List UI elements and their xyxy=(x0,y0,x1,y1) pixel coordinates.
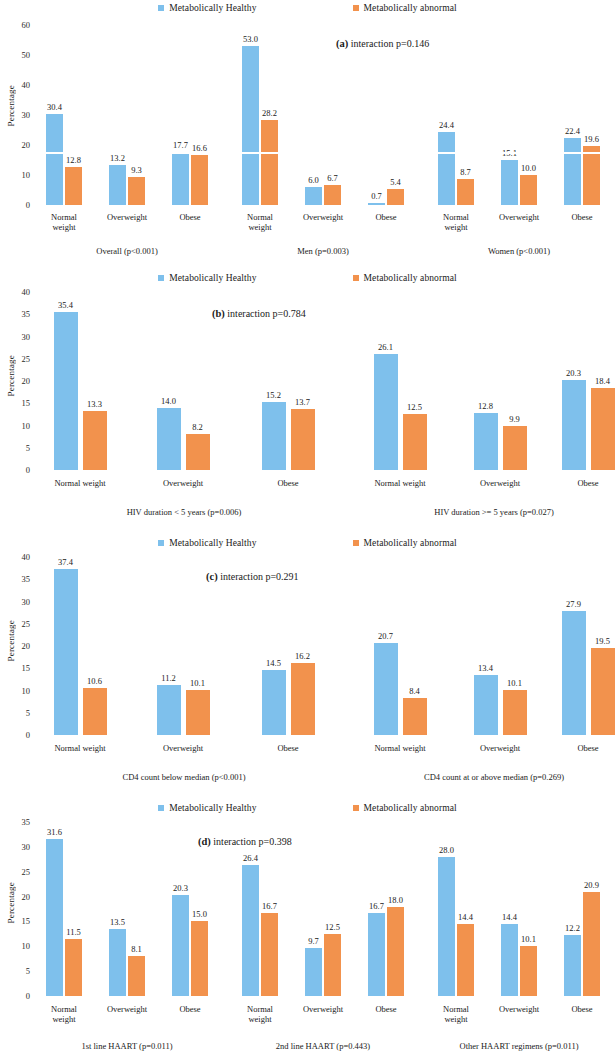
y-tick-label: 30 xyxy=(6,843,30,852)
bar-abnormal xyxy=(520,946,537,996)
bar-abnormal xyxy=(83,411,107,470)
bar-value-label: 10.1 xyxy=(521,935,536,944)
bar-abnormal xyxy=(191,921,208,996)
bar-value-label: 30.4 xyxy=(47,103,62,112)
bar-value-label: 6.0 xyxy=(308,176,319,185)
x-category-label: Normal weight xyxy=(374,743,425,753)
bar-value-label: 13.4 xyxy=(478,664,493,673)
y-tick-label: 30 xyxy=(6,332,30,341)
plot-area-a: Percentage 0102030405060 30.413.217.753.… xyxy=(0,0,615,270)
bar-healthy xyxy=(305,948,322,996)
y-tick-label: 25 xyxy=(6,867,30,876)
bar-value-label: 26.4 xyxy=(243,854,258,863)
bar-abnormal xyxy=(128,177,145,205)
chart-panel-c: Metabolically Healthy Metabolically abno… xyxy=(0,535,615,800)
x-category-label: Obese xyxy=(571,1004,592,1014)
bar-value-label: 22.4 xyxy=(565,127,580,136)
bar-healthy xyxy=(262,402,286,470)
bar-healthy xyxy=(564,138,581,205)
bar-healthy xyxy=(374,643,398,735)
bars-c: 37.411.214.520.713.427.910.610.116.28.41… xyxy=(30,557,615,735)
x-category-label: Obese xyxy=(577,743,598,753)
bar-abnormal xyxy=(457,179,474,205)
bar-healthy xyxy=(262,670,286,735)
bar-healthy xyxy=(305,187,322,205)
y-tick-label: 5 xyxy=(6,967,30,976)
bar-healthy xyxy=(172,895,189,996)
bar-abnormal xyxy=(503,690,527,735)
x-category-label: Obese xyxy=(375,1004,396,1014)
bar-value-label: 14.5 xyxy=(266,659,281,668)
bar-value-label: 13.2 xyxy=(110,154,125,163)
x-category-label: Overweight xyxy=(499,1004,539,1014)
bar-value-label: 9.7 xyxy=(308,937,319,946)
x-category-label: Overweight xyxy=(107,212,147,222)
y-tick-label: 20 xyxy=(6,141,30,150)
bar-value-label: 28.0 xyxy=(439,846,454,855)
bar-value-label: 10.0 xyxy=(521,164,536,173)
y-tick-label: 35 xyxy=(6,310,30,319)
plot-area-c: Percentage 0510152025303540 37.411.214.5… xyxy=(0,535,615,800)
bar-healthy xyxy=(368,913,385,996)
x-group-label: CD4 count at or above median (p=0.269) xyxy=(424,773,564,782)
x-category-label: Overweight xyxy=(107,1004,147,1014)
chart-panel-d: Metabolically Healthy Metabolically abno… xyxy=(0,800,615,1063)
bar-healthy xyxy=(474,413,498,470)
bar-healthy xyxy=(109,165,126,205)
bar-value-label: 12.8 xyxy=(478,402,493,411)
bar-value-label: 18.0 xyxy=(388,896,403,905)
bar-value-label: 14.0 xyxy=(161,397,176,406)
bar-healthy xyxy=(109,929,126,996)
bar-healthy xyxy=(438,857,455,996)
y-tick-label: 10 xyxy=(6,942,30,951)
bar-abnormal xyxy=(186,690,210,735)
x-group-label: Men (p=0.003) xyxy=(297,247,349,256)
bar-value-label: 24.4 xyxy=(439,121,454,130)
bar-healthy xyxy=(157,408,181,470)
x-group-label: HIV duration < 5 years (p=0.006) xyxy=(127,508,242,517)
x-category-label: Overweight xyxy=(480,743,520,753)
bar-value-label: 10.1 xyxy=(507,679,522,688)
bar-value-label: 18.4 xyxy=(595,377,610,386)
y-tick-label: 40 xyxy=(6,81,30,90)
x-group-label: HIV duration >= 5 years (p=0.027) xyxy=(434,508,554,517)
x-category-label: Normal weight xyxy=(41,1004,87,1024)
bar-value-label: 15.0 xyxy=(192,910,207,919)
bar-value-label: 20.3 xyxy=(173,884,188,893)
bar-healthy xyxy=(374,354,398,470)
bar-abnormal xyxy=(65,939,82,996)
bar-abnormal xyxy=(261,913,278,996)
bar-value-label: 10.6 xyxy=(87,677,102,686)
bar-abnormal xyxy=(591,648,615,735)
x-category-label: Normal weight xyxy=(237,1004,283,1024)
y-tick-label: 5 xyxy=(6,444,30,453)
bars-b: 35.414.015.226.112.820.313.38.213.712.59… xyxy=(30,292,615,470)
bar-abnormal xyxy=(191,155,208,205)
bar-value-label: 53.0 xyxy=(243,35,258,44)
x-category-label: Normal weight xyxy=(54,743,105,753)
bar-abnormal xyxy=(291,409,315,470)
bar-value-label: 31.6 xyxy=(47,828,62,837)
y-tick-label: 15 xyxy=(6,917,30,926)
y-tick-label: 0 xyxy=(6,731,30,740)
x-category-label: Obese xyxy=(179,1004,200,1014)
y-tick-label: 10 xyxy=(6,171,30,180)
bar-value-label: 8.7 xyxy=(460,168,471,177)
bar-abnormal xyxy=(403,698,427,735)
x-group-label: Women (p<0.001) xyxy=(488,247,550,256)
bar-healthy xyxy=(438,132,455,205)
bar-value-label: 12.2 xyxy=(565,924,580,933)
bar-value-label: 8.1 xyxy=(131,945,142,954)
bar-value-label: 20.9 xyxy=(584,881,599,890)
x-category-label: Overweight xyxy=(480,478,520,488)
x-group-label: Other HAART regimens (p=0.011) xyxy=(459,1042,578,1051)
bar-abnormal xyxy=(591,388,615,470)
y-tick-label: 30 xyxy=(6,111,30,120)
bar-abnormal xyxy=(186,434,210,470)
y-axis-ticks-b: 0510152025303540 xyxy=(0,270,30,535)
y-tick-label: 0 xyxy=(6,992,30,1001)
x-category-label: Overweight xyxy=(303,212,343,222)
x-category-label: Normal weight xyxy=(237,212,283,232)
bar-value-label: 13.3 xyxy=(87,400,102,409)
chart-panel-b: Metabolically Healthy Metabolically abno… xyxy=(0,270,615,535)
